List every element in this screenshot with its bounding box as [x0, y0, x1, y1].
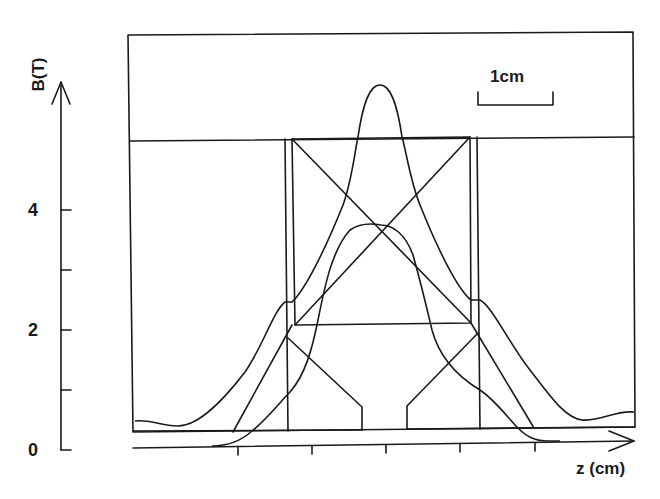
magnetic-field-profile-figure: B(T) 4 2 0 z (cm) 1cm — [0, 0, 660, 499]
y-axis — [52, 82, 71, 450]
y-axis-label: B(T) — [30, 58, 47, 92]
y-tick-label-0: 0 — [14, 441, 38, 459]
y-tick-label-2: 2 — [14, 321, 38, 339]
x-axis — [133, 431, 634, 455]
inner-field-curve — [212, 224, 560, 446]
y-tick-label-4: 4 — [14, 201, 38, 219]
plot-canvas — [0, 0, 660, 499]
magnet-geometry — [128, 32, 635, 432]
x-axis-label: z (cm) — [576, 460, 625, 477]
scale-bar — [478, 92, 553, 105]
outer-field-curve — [135, 85, 634, 426]
scale-bar-label: 1cm — [490, 68, 524, 85]
